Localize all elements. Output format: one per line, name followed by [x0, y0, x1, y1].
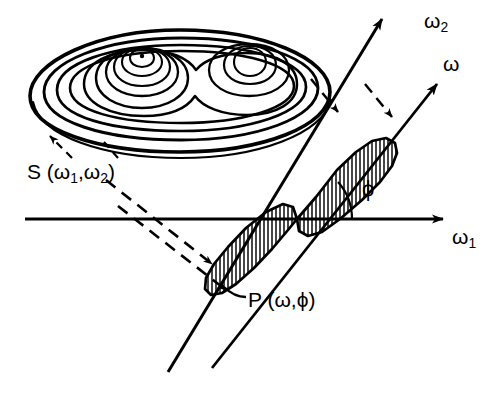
slice-label-leader: [224, 287, 246, 297]
slice-band-upper-hatch: [300, 130, 396, 245]
spectrum-surface-contours: [30, 30, 331, 158]
surface-leader-arrow-upper: [106, 180, 212, 264]
omega-axis-label: ω: [443, 52, 459, 76]
omega2-axis-label: ω2: [424, 9, 448, 35]
spectrum-surface-label: S (ω1,ω2): [27, 160, 115, 186]
peak-major-apex: [140, 54, 144, 58]
phi-angle-label: ϕ: [362, 176, 374, 202]
surface-rim: [30, 30, 330, 152]
surface-rim-leader-arrow: [50, 136, 72, 158]
slice-spectrum-label: P (ω,ϕ): [248, 288, 315, 312]
omega1-axis-label: ω1: [452, 225, 476, 251]
diagram-svg: [0, 0, 500, 397]
omega-axis: [212, 84, 437, 368]
figure-canvas: ω2 ω ω1 ϕ S (ω1,ω2) P (ω,ϕ): [0, 0, 500, 397]
band-width-arrow-right: [365, 84, 392, 117]
